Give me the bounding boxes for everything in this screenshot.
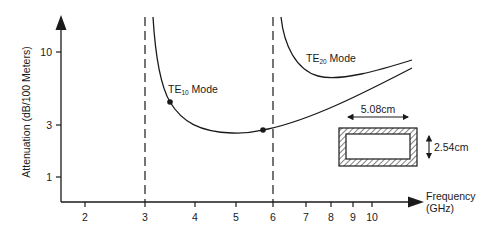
y-tick-label: 3 <box>46 119 52 131</box>
x-tick-label: 5 <box>233 211 239 223</box>
attenuation-vs-frequency-chart: 1310 2345678910 Attenuation (dB/100 Mete… <box>0 0 496 234</box>
y-tick-label: 1 <box>46 171 52 183</box>
te20-mode-label: TE20 Mode <box>306 52 356 65</box>
x-tick-label: 3 <box>142 211 148 223</box>
waveguide-interior <box>346 134 410 159</box>
te10-marker-1 <box>167 99 173 105</box>
x-axis-title: Frequency (GHz) <box>426 190 479 214</box>
x-tick-label: 8 <box>328 211 334 223</box>
x-axis-title-line1: Frequency <box>426 190 476 202</box>
te10-marker-2 <box>260 127 266 133</box>
x-ticks: 2345678910 <box>82 202 378 223</box>
te20-mode-curve <box>281 17 412 78</box>
x-tick-label: 2 <box>82 211 88 223</box>
x-tick-label: 7 <box>303 211 309 223</box>
x-tick-label: 9 <box>350 211 356 223</box>
waveguide-cross-section: 5.08cm 2.54cm <box>339 103 469 166</box>
waveguide-width-label: 5.08cm <box>361 103 396 115</box>
te10-mode-curve <box>153 17 412 133</box>
y-axis-arrow-icon <box>56 15 67 30</box>
y-ticks: 1310 <box>40 46 61 183</box>
y-axis-title: Attenuation (dB/100 Meters) <box>20 46 32 177</box>
x-tick-label: 4 <box>192 211 198 223</box>
te10-mode-label: TE10 Mode <box>168 83 218 96</box>
waveguide-height-label: 2.54cm <box>434 141 469 153</box>
x-axis-arrow-icon <box>408 197 424 208</box>
x-tick-label: 6 <box>270 211 276 223</box>
y-tick-label: 10 <box>40 46 52 58</box>
x-axis-title-line2: (GHz) <box>426 202 454 214</box>
x-tick-label: 10 <box>366 211 378 223</box>
